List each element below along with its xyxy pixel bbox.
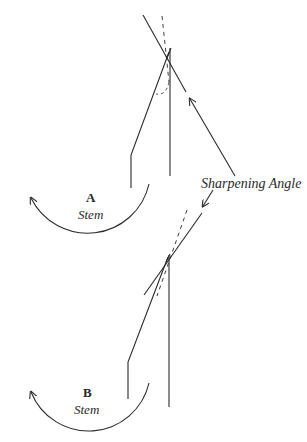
panel-b-label: B	[83, 385, 92, 401]
panel-a-blade-left	[131, 52, 169, 188]
panel-a-sharpening-line	[143, 15, 186, 92]
sharpening-angle-label: Sharpening Angle	[201, 176, 301, 192]
panel-b-sharpening-line	[144, 213, 202, 295]
panel-b-blade-left	[128, 257, 168, 399]
panel-a-annotation-arrow	[190, 99, 235, 176]
panel-b-annotation-arrow	[203, 190, 213, 206]
panel-b-stem-label: Stem	[74, 402, 99, 418]
sharpening-diagram	[0, 0, 307, 442]
panel-b-dashed-guide	[157, 210, 187, 296]
panel-a	[31, 15, 235, 233]
panel-a-label: A	[86, 190, 95, 206]
panel-a-dashed-curve	[156, 82, 169, 94]
panel-a-dashed-guide	[162, 16, 169, 82]
panel-a-stem-label: Stem	[78, 207, 103, 223]
